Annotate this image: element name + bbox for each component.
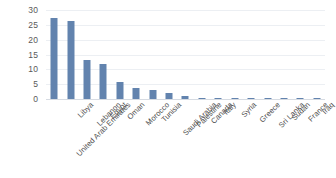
bar [133,88,140,99]
bar-slot [95,10,111,99]
y-axis-tick-label: 20 [28,35,38,44]
bar [84,60,91,99]
bar-slot [128,10,144,99]
bar-slot [161,10,177,99]
bar-series [46,10,325,99]
bar [51,18,58,99]
bar [100,64,107,99]
bar-slot [309,10,325,99]
bar-slot [259,10,275,99]
y-axis-tick-label: 25 [28,21,38,30]
bar-slot [144,10,160,99]
x-axis-tick-label: Libya [76,101,94,119]
bar-slot [210,10,226,99]
bar-slot [79,10,95,99]
bar-slot [292,10,308,99]
y-axis-tick-label: 30 [28,6,38,15]
bar-slot [194,10,210,99]
plot-area [46,10,325,99]
bar-slot [62,10,78,99]
y-axis-tick-label: 5 [33,80,38,89]
y-axis-tick-label: 15 [28,50,38,59]
bar-slot [177,10,193,99]
bar [149,90,156,99]
x-axis-tick-label: Syria [240,101,258,119]
bar [67,21,74,99]
bar [116,82,123,100]
y-axis-tick-label: 0 [33,95,38,104]
bar-slot [112,10,128,99]
bar-slot [276,10,292,99]
bar-slot [46,10,62,99]
x-axis: United Arab EmiratesLibyaLebanonEgyptOma… [46,99,325,178]
bar-slot [227,10,243,99]
bar-slot [243,10,259,99]
y-axis: 051015202530 [0,10,42,99]
y-axis-tick-label: 10 [28,65,38,74]
